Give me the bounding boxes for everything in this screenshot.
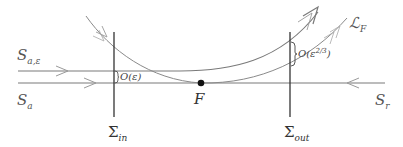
label-s-a: Sa: [17, 93, 33, 111]
label-gap-out: O(ε2/3): [298, 48, 331, 59]
label-sigma-in: Σin: [108, 125, 127, 143]
gap-in-brace: [115, 71, 119, 83]
label-sigma-out: Σout: [284, 125, 309, 143]
label-fold-point: F: [194, 92, 204, 107]
label-s-r: Sr: [375, 93, 390, 111]
label-s-a-eps: Sa,ε: [17, 48, 40, 66]
s-a-eps-curve: [18, 12, 318, 71]
l-f-arrow2-icon: [324, 32, 334, 44]
fold-diagram: [0, 0, 403, 147]
label-gap-in: O(ε): [120, 72, 141, 82]
fold-point-f: [198, 80, 205, 87]
label-l-f: ℒF: [349, 16, 366, 34]
